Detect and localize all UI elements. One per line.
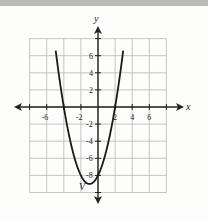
y-tick-label: -4 [86,137,93,146]
coordinate-plane: -6-2246642-2-4-6-8 x y V [0,0,208,221]
y-tick-label: -6 [86,154,93,163]
x-tick-label: -6 [42,113,49,122]
y-tick-label: 4 [89,69,93,78]
x-axis-label: x [185,101,191,112]
x-tick-label: 6 [147,113,151,122]
y-axis-label: y [93,13,99,24]
x-tick-label: -2 [76,113,83,122]
y-tick-label: -8 [86,171,93,180]
y-tick-label: -2 [86,120,93,129]
y-tick-label: 6 [89,52,93,61]
x-tick-label: 4 [130,113,134,122]
y-tick-label: 2 [89,86,93,95]
